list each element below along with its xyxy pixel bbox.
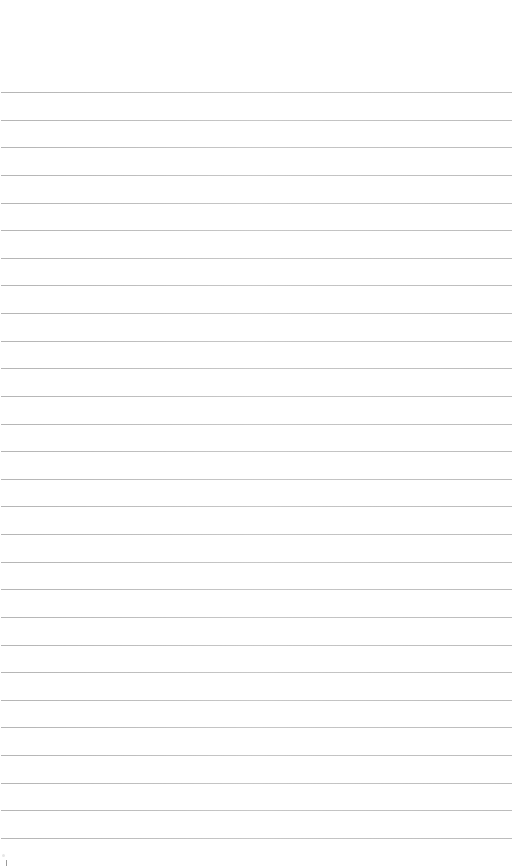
ruled-line <box>1 838 512 839</box>
ruled-line <box>1 451 512 452</box>
ruled-line <box>1 147 512 148</box>
ruled-line <box>1 755 512 756</box>
ruled-line <box>1 727 512 728</box>
ruled-line <box>1 506 512 507</box>
ruled-line <box>1 341 512 342</box>
ruled-line <box>1 92 512 93</box>
ruled-line <box>1 368 512 369</box>
ruled-line <box>1 645 512 646</box>
ruled-line <box>1 424 512 425</box>
ruled-line <box>1 230 512 231</box>
ruled-line <box>1 783 512 784</box>
ruled-line <box>1 396 512 397</box>
ruled-line <box>1 175 512 176</box>
ruled-line <box>1 617 512 618</box>
ruled-line <box>1 203 512 204</box>
ruled-line <box>1 534 512 535</box>
paper-smudge <box>2 854 5 857</box>
ruled-line <box>1 700 512 701</box>
ruled-line <box>1 258 512 259</box>
ruled-line <box>1 562 512 563</box>
ruled-line <box>1 479 512 480</box>
lined-paper-page <box>0 0 515 867</box>
ruled-line <box>1 120 512 121</box>
ruled-line <box>1 672 512 673</box>
ruled-line <box>1 285 512 286</box>
ruled-line <box>1 810 512 811</box>
corner-tick-mark <box>6 860 7 866</box>
ruled-line <box>1 313 512 314</box>
ruled-line <box>1 589 512 590</box>
